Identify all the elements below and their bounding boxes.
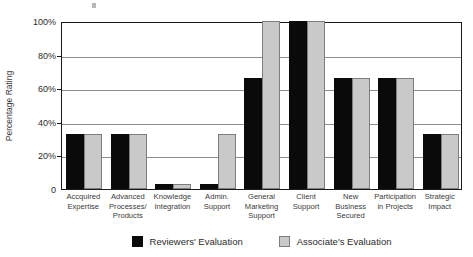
bar-associates (262, 21, 280, 189)
bar-reviewers (378, 78, 396, 189)
y-tick-label: 40% (38, 118, 56, 128)
x-axis-labels: AccquiredExpertiseAdvancedProcesses/Prod… (61, 192, 462, 228)
scan-artifact (92, 3, 96, 8)
bar-group (374, 23, 419, 189)
bar-associates (84, 134, 102, 189)
bar-chart: Percentage Rating 100%80%60%40%20%0 Accq… (0, 0, 473, 257)
legend-swatch-associates (279, 236, 290, 247)
legend-label: Associate's Evaluation (297, 236, 392, 247)
bar-reviewers (289, 21, 307, 189)
legend-entry: Associate's Evaluation (279, 236, 392, 247)
y-axis-ticks: 100%80%60%40%20%0 (0, 0, 61, 257)
bar-reviewers (423, 134, 441, 189)
bar-group (151, 23, 196, 189)
y-tick-label: 20% (38, 151, 56, 161)
bar-reviewers (66, 134, 84, 189)
bar-reviewers (155, 184, 173, 189)
x-axis-label-line: Impact (413, 202, 466, 212)
bar-associates (173, 184, 191, 189)
y-tick-label: 0 (51, 185, 56, 195)
bar-associates (307, 21, 325, 189)
bar-group (329, 23, 374, 189)
bar-associates (396, 78, 414, 189)
bar-reviewers (111, 134, 129, 189)
bar-group (107, 23, 152, 189)
bar-group (240, 23, 285, 189)
bar-associates (441, 134, 459, 189)
plot-area (61, 22, 462, 190)
legend-swatch-reviewers (132, 236, 143, 247)
legend-label: Reviewers' Evaluation (150, 236, 243, 247)
x-axis-label-line: Support (235, 211, 288, 221)
bar-group (196, 23, 241, 189)
bar-associates (129, 134, 147, 189)
y-tick-label: 60% (38, 84, 56, 94)
bar-associates (352, 78, 370, 189)
y-tick-label: 80% (38, 51, 56, 61)
legend-entry: Reviewers' Evaluation (132, 236, 243, 247)
bar-reviewers (200, 184, 218, 189)
bar-reviewers (334, 78, 352, 189)
bar-group (418, 23, 463, 189)
bar-associates (218, 134, 236, 189)
x-axis-label-line: Strategic (413, 192, 466, 202)
bar-group (62, 23, 107, 189)
x-axis-label-line: Products (102, 211, 155, 221)
x-axis-label: StrategicImpact (413, 192, 466, 211)
bar-group (285, 23, 330, 189)
x-axis-label-line: Secured (324, 211, 377, 221)
chart-legend: Reviewers' EvaluationAssociate's Evaluat… (61, 231, 462, 251)
bar-reviewers (244, 78, 262, 189)
y-tick-label: 100% (33, 17, 56, 27)
bars-layer (62, 23, 461, 189)
